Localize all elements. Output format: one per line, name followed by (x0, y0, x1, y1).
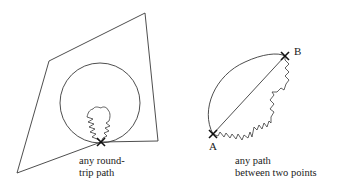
diagram-canvas: any round- trip path B A any path betwee… (0, 0, 345, 193)
circle-path (60, 63, 140, 143)
outer-quadrilateral-path (17, 13, 158, 173)
zigzag-loop-path (87, 107, 110, 142)
right-caption-line-2: between two points (235, 167, 317, 178)
left-caption-line-1: any round- (79, 155, 125, 166)
point-b-label: B (294, 45, 301, 57)
left-panel: any round- trip path (17, 13, 158, 178)
point-a-label: A (209, 140, 217, 152)
right-caption-line-1: any path (235, 155, 272, 166)
left-caption-line-2: trip path (79, 167, 115, 178)
zigzag-path-a-to-b (213, 56, 289, 140)
point-a-marker (209, 130, 217, 138)
right-panel: B A any path between two points (208, 45, 316, 178)
